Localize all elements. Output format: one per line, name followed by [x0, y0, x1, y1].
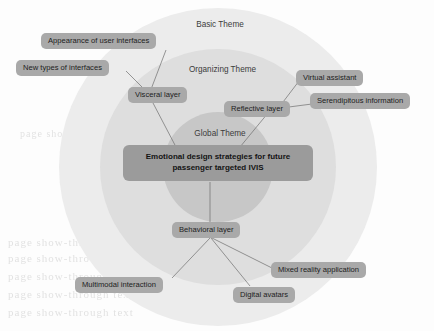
center-line-1: Emotional design strategies for future [146, 152, 290, 161]
pill-serendipitous-information[interactable]: Serendipitous information [310, 93, 410, 109]
pill-behavioral-layer[interactable]: Behavioral layer [172, 222, 240, 238]
pill-visceral-layer[interactable]: Visceral layer [128, 87, 187, 103]
connector-reflective-center [240, 113, 268, 147]
pill-multimodal-interaction[interactable]: Multimodal interaction [75, 277, 163, 293]
pill-digital-avatars[interactable]: Digital avatars [233, 287, 295, 303]
connector-behavioral-mixedreality [212, 238, 272, 268]
pill-mixed-reality-application[interactable]: Mixed reality application [271, 262, 366, 278]
pill-reflective-layer[interactable]: Reflective layer [224, 101, 290, 117]
pill-appearance-of-user-interfaces[interactable]: Appearance of user interfaces [41, 33, 156, 49]
thematic-network-figure: page show-through text page show-through… [0, 0, 434, 331]
pill-virtual-assistant[interactable]: Virtual assistant [296, 70, 363, 86]
center-line-2: passenger targeted IVIS [172, 163, 263, 172]
pill-new-types-of-interfaces[interactable]: New types of interfaces [16, 60, 109, 76]
center-global-theme-box[interactable]: Emotional design strategies for future p… [123, 145, 313, 181]
connector-behavioral-avatars [211, 238, 250, 286]
connector-behavioral-multimodal [172, 238, 210, 278]
connector-visceral-center [153, 103, 176, 147]
connector-appearance-visceral [150, 50, 166, 92]
